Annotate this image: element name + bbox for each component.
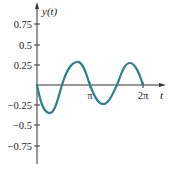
x-axis-arrow-icon bbox=[159, 83, 166, 87]
series-line bbox=[37, 62, 143, 113]
y-axis-label: y(t) bbox=[41, 5, 58, 18]
x-axis-label: t bbox=[160, 89, 164, 101]
y-tick-label: 0.25 bbox=[14, 60, 32, 71]
y-tick-label: −0.25 bbox=[8, 100, 32, 111]
chart: 0.75 0.5 0.25 −0.25 −0.5 −0.75 π 2π y(t)… bbox=[0, 0, 177, 170]
y-tick-label: −0.5 bbox=[13, 120, 32, 131]
y-tick-label: 0.75 bbox=[14, 19, 32, 30]
y-tick-label: 0.5 bbox=[19, 40, 32, 51]
y-axis-arrow-icon bbox=[35, 2, 39, 9]
y-tick-label: −0.75 bbox=[8, 141, 32, 152]
x-tick-label-2pi: 2π bbox=[138, 90, 149, 101]
